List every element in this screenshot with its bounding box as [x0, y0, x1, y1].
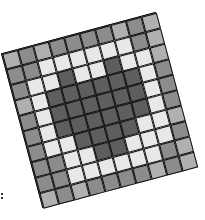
cell-grid [1, 12, 197, 208]
edge-mark [1, 193, 4, 199]
grid-cell [179, 152, 199, 172]
rotated-grid [1, 12, 197, 208]
figure-canvas [0, 0, 205, 220]
